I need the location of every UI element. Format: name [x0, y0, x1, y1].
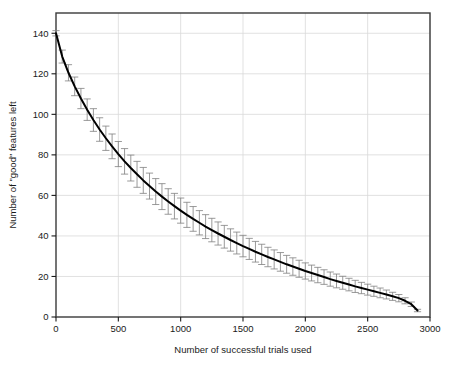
- x-tick-label: 2000: [295, 323, 316, 334]
- y-tick-label: 60: [38, 190, 49, 201]
- y-tick-label: 140: [33, 28, 49, 39]
- y-tick-label: 40: [38, 230, 49, 241]
- y-tick-label: 100: [33, 109, 49, 120]
- axis-ticks: [52, 33, 431, 321]
- error-bars: [52, 31, 421, 312]
- grid-lines: [56, 13, 430, 317]
- y-tick-label: 80: [38, 149, 49, 160]
- y-axis-title: Number of "good" features left: [7, 101, 18, 229]
- data-line: [56, 33, 418, 310]
- x-tick-label: 2500: [357, 323, 378, 334]
- chart-figure: 0204060801001201400500100015002000250030…: [0, 0, 457, 368]
- x-axis-title: Number of successful trials used: [174, 344, 311, 355]
- x-tick-label: 500: [110, 323, 126, 334]
- decay-curve-chart: 0204060801001201400500100015002000250030…: [0, 0, 457, 368]
- x-tick-label: 0: [53, 323, 58, 334]
- y-tick-label: 20: [38, 271, 49, 282]
- y-tick-label: 120: [33, 68, 49, 79]
- series-line: [56, 33, 418, 310]
- x-tick-label: 1500: [232, 323, 253, 334]
- x-tick-label: 3000: [419, 323, 440, 334]
- x-tick-label: 1000: [170, 323, 191, 334]
- y-tick-label: 0: [43, 311, 48, 322]
